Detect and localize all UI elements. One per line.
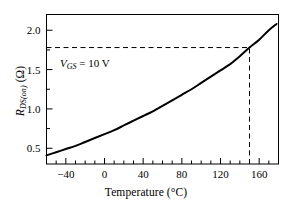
y-tick-label: 0.5 (27, 142, 41, 154)
x-tick-label: 80 (176, 168, 188, 180)
axis-frame (47, 15, 279, 165)
x-tick-label: 0 (102, 168, 108, 180)
y-axis-title-symbol: R (14, 109, 26, 116)
vgs-value: = 10 V (77, 57, 110, 69)
chart-figure: −4004080120160 0.51.01.52.0 Temperature … (0, 0, 292, 208)
x-tick-label: 120 (212, 168, 229, 180)
y-tick-label: 1.0 (27, 103, 41, 115)
data-series-curve (47, 24, 277, 155)
x-axis-minor-ticks (56, 161, 269, 165)
y-axis-title: RDS(on) (Ω) (14, 66, 28, 116)
x-tick-label: 160 (251, 168, 268, 180)
vgs-subscript: GS (67, 62, 77, 71)
chart-plot-area: −4004080120160 0.51.01.52.0 (0, 0, 292, 208)
vgs-annotation: VGS = 10 V (60, 57, 110, 71)
y-axis-minor-ticks (47, 50, 51, 129)
y-tick-label: 2.0 (27, 24, 41, 36)
y-axis-title-unit: (Ω) (14, 66, 26, 83)
y-axis-title-wrapper: RDS(on) (Ω) (10, 16, 28, 166)
y-axis-tick-labels: 0.51.01.52.0 (27, 24, 41, 154)
x-axis-tick-labels: −4004080120160 (57, 168, 268, 180)
x-axis-title: Temperature (°C) (0, 186, 292, 198)
x-tick-label: −40 (57, 168, 75, 180)
x-axis-title-text: Temperature (°C) (105, 186, 187, 198)
vgs-symbol: V (60, 57, 67, 69)
x-tick-label: 40 (138, 168, 150, 180)
y-axis-title-subscript: DS(on) (19, 85, 28, 109)
y-tick-label: 1.5 (27, 64, 41, 76)
